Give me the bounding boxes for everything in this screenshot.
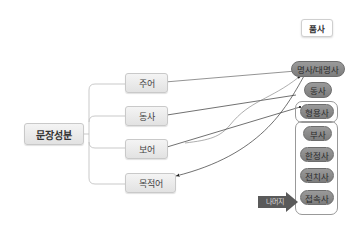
pos-noun[interactable]: 명사/대명사 [291,61,345,77]
edge-adjective-complement [167,107,300,147]
tree-bracket [84,84,128,184]
pos-title: 품사 [301,19,333,37]
node-complement[interactable]: 보어 [125,139,168,159]
root-label: 문장성분 [36,127,72,142]
pos-conjunction[interactable]: 접속사 [300,190,334,205]
pos-determiner[interactable]: 한정사 [300,147,334,162]
node-predicate[interactable]: 동사 [125,106,168,126]
root-node[interactable]: 문장성분 [24,123,84,145]
node-subject[interactable]: 주어 [125,73,168,93]
edge-noun-complement [185,77,299,143]
edge-noun-subject [165,71,296,82]
pos-adjective[interactable]: 형용사 [300,104,334,119]
edge-verb-predicate [167,95,296,115]
subject-label: 주어 [139,77,155,90]
pos-adverb[interactable]: 부사 [303,126,332,141]
pos-preposition[interactable]: 전치사 [300,168,334,183]
predicate-label: 동사 [139,110,155,123]
edge-noun-object [176,76,304,176]
pos-verb[interactable]: 동사 [304,82,332,98]
callout-label: 나머지 [258,196,292,208]
node-object[interactable]: 목적어 [125,173,176,193]
rest-callout-arrow: 나머지 [258,192,302,212]
object-label: 목적어 [139,177,163,190]
complement-label: 보어 [139,143,155,156]
